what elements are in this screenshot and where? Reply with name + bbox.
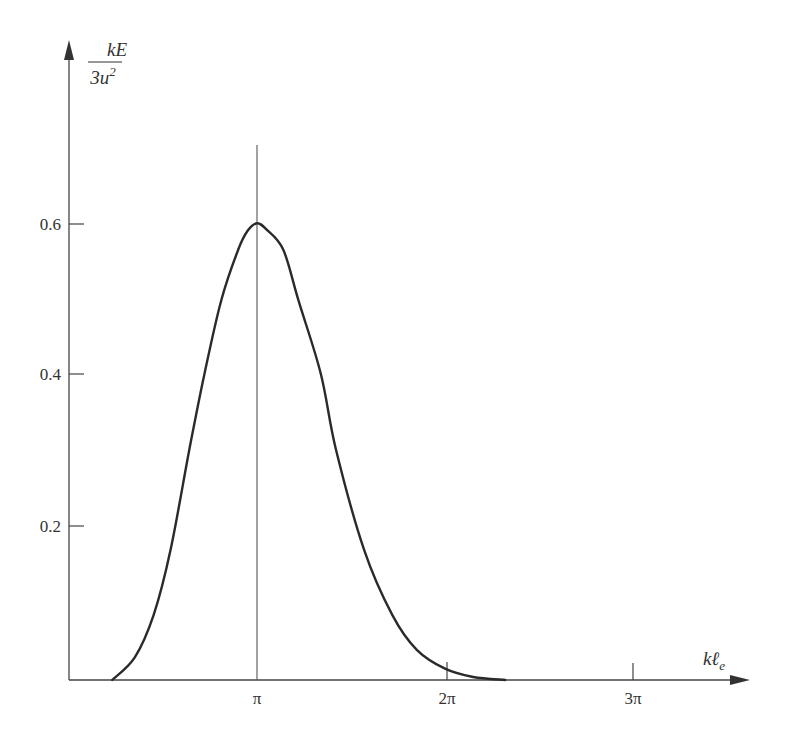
x-axis-label: kℓe <box>703 648 725 673</box>
y-tick-label: 0.2 <box>40 517 61 536</box>
x-tick-label: 3π <box>624 689 642 708</box>
axes <box>69 52 738 680</box>
x-tick-label: π <box>253 689 262 708</box>
y-axis-arrow-icon <box>64 40 74 60</box>
y-axis-label: kE 3u2 <box>88 39 127 88</box>
chart: kE 3u2 kℓe 0.6 0.4 0.2 π 2π 3π <box>0 0 785 735</box>
y-ticks: 0.6 0.4 0.2 <box>40 215 84 536</box>
y-tick-label: 0.4 <box>40 365 62 384</box>
y-tick-label: 0.6 <box>40 215 61 234</box>
y-label-numerator: kE <box>107 39 127 60</box>
y-label-denominator: 3u2 <box>89 64 116 88</box>
x-axis-arrow-icon <box>730 675 750 685</box>
data-curve <box>112 223 505 680</box>
x-tick-label: 2π <box>438 689 456 708</box>
